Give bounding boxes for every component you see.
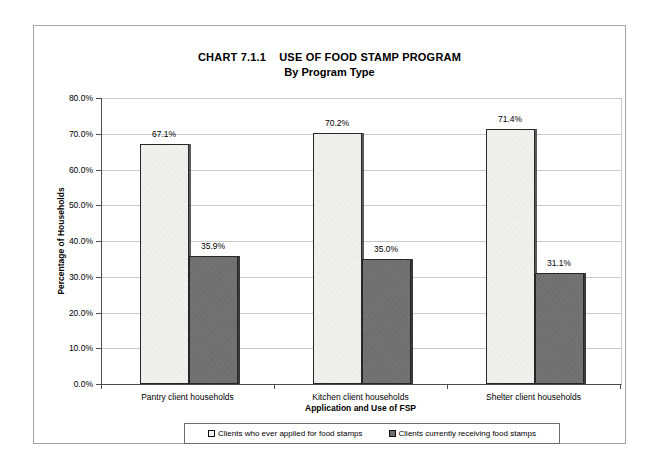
- x-tick-mark: [620, 385, 621, 389]
- y-tick-mark: [96, 313, 101, 314]
- legend-swatch-icon: [389, 430, 396, 437]
- page: CHART 7.1.1 USE OF FOOD STAMP PROGRAM By…: [0, 0, 660, 470]
- y-tick-label: 20.0%: [43, 308, 93, 318]
- bar-applied-cat2: [486, 129, 535, 384]
- legend-swatch-icon: [208, 430, 215, 437]
- y-tick-label: 30.0%: [43, 272, 93, 282]
- legend-item-1: Clients currently receiving food stamps: [389, 429, 536, 438]
- y-tick-label: 60.0%: [43, 165, 93, 175]
- x-tick-mark: [447, 385, 448, 389]
- bar-receiving-cat2: [535, 273, 584, 384]
- x-category-label: Shelter client households: [447, 392, 620, 402]
- y-tick-label: 70.0%: [43, 129, 93, 139]
- y-tick-mark: [96, 98, 101, 99]
- y-tick-mark: [96, 348, 101, 349]
- x-tick-mark: [101, 385, 102, 389]
- y-tick-label: 80.0%: [43, 93, 93, 103]
- y-tick-label: 40.0%: [43, 236, 93, 246]
- x-category-label: Kitchen client households: [274, 392, 447, 402]
- x-axis-title: Application and Use of FSP: [101, 403, 620, 413]
- bar-applied-cat0: [140, 144, 189, 384]
- gridline: [102, 98, 621, 99]
- y-tick-mark: [96, 205, 101, 206]
- chart-subtitle: By Program Type: [34, 66, 625, 78]
- legend-item-0: Clients who ever applied for food stamps: [208, 429, 363, 438]
- y-tick-mark: [96, 134, 101, 135]
- bar-value-label: 35.9%: [201, 241, 225, 251]
- legend-label: Clients currently receiving food stamps: [399, 429, 536, 438]
- bar-applied-cat1: [313, 133, 362, 384]
- bar-value-label: 70.2%: [325, 118, 349, 128]
- bar-value-label: 67.1%: [152, 129, 176, 139]
- bar-value-label: 35.0%: [374, 244, 398, 254]
- gridline: [102, 134, 621, 135]
- y-tick-label: 10.0%: [43, 343, 93, 353]
- bar-value-label: 31.1%: [547, 258, 571, 268]
- legend-label: Clients who ever applied for food stamps: [218, 429, 363, 438]
- chart-title: CHART 7.1.1 USE OF FOOD STAMP PROGRAM: [34, 51, 625, 63]
- legend: Clients who ever applied for food stamps…: [184, 423, 560, 444]
- x-tick-mark: [274, 385, 275, 389]
- plot-area: 67.1%35.9%70.2%35.0%71.4%31.1%: [101, 98, 622, 385]
- bar-receiving-cat0: [189, 256, 238, 384]
- chart-frame: CHART 7.1.1 USE OF FOOD STAMP PROGRAM By…: [33, 25, 626, 444]
- y-tick-mark: [96, 170, 101, 171]
- y-tick-mark: [96, 277, 101, 278]
- x-category-label: Pantry client households: [101, 392, 274, 402]
- y-tick-mark: [96, 241, 101, 242]
- bar-value-label: 71.4%: [498, 114, 522, 124]
- bar-receiving-cat1: [362, 259, 411, 384]
- y-tick-label: 0.0%: [43, 379, 93, 389]
- y-tick-label: 50.0%: [43, 200, 93, 210]
